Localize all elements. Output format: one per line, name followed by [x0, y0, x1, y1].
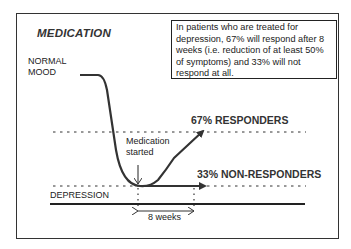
- duration-label: 8 weeks: [148, 212, 181, 223]
- medication-label-line2: started: [126, 147, 170, 158]
- non-responders-label: 33% NON-RESPONDERS: [197, 168, 321, 180]
- normal-mood-label: NORMAL MOOD: [28, 56, 67, 78]
- mood-curve: [80, 75, 203, 186]
- medication-started-label: Medication started: [126, 136, 170, 158]
- info-box: In patients who are treated for depressi…: [171, 20, 337, 79]
- normal-mood-label-line2: MOOD: [28, 67, 67, 78]
- normal-mood-label-line1: NORMAL: [28, 56, 67, 67]
- depression-label: DEPRESSION: [50, 190, 109, 201]
- responders-label: 67% RESPONDERS: [191, 114, 288, 126]
- medication-label-line1: Medication: [126, 136, 170, 147]
- diagram-title: MEDICATION: [37, 27, 111, 39]
